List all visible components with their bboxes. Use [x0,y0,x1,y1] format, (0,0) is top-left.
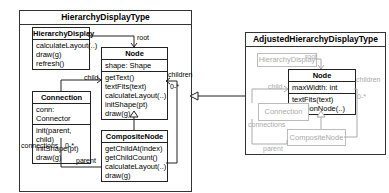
connector-lines [0,0,389,193]
